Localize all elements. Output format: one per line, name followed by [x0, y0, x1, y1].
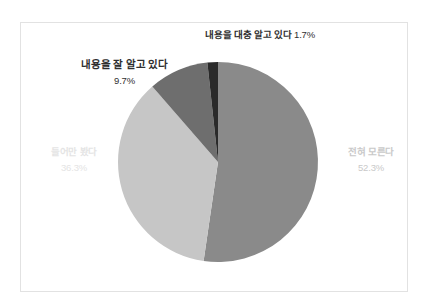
- pie-label-well-know: 내용을 잘 알고 있다 9.7%: [57, 58, 192, 87]
- pie-label-only-heard-percent: 36.3%: [24, 162, 124, 175]
- pie-label-well-know-text: 내용을 잘 알고 있다: [57, 58, 192, 72]
- pie-label-approximately-know: 내용을 대충 알고 있다 1.7%: [185, 29, 335, 42]
- pie-label-well-know-percent: 9.7%: [57, 75, 192, 88]
- pie-label-approximately-know-percent: 1.7%: [292, 29, 315, 40]
- pie-label-dont-know: 전혀 모른다 52.3%: [326, 146, 416, 174]
- pie-label-dont-know-text: 전혀 모른다: [326, 146, 416, 159]
- pie-label-approximately-know-text: 내용을 대충 알고 있다: [205, 29, 292, 40]
- pie-label-dont-know-percent: 52.3%: [326, 162, 416, 175]
- pie-chart: 내용을 대충 알고 있다 1.7% 내용을 잘 알고 있다 9.7% 들어만 봤…: [0, 0, 428, 308]
- pie-slice-group: [118, 62, 318, 262]
- pie-slice: [204, 62, 318, 262]
- pie-label-only-heard-text: 들어만 봤다: [24, 146, 124, 159]
- pie-label-only-heard: 들어만 봤다 36.3%: [24, 146, 124, 174]
